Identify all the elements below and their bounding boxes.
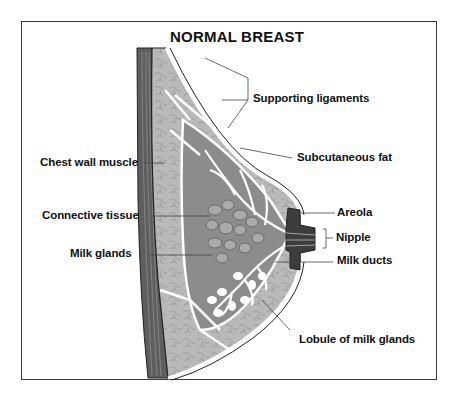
- diagram-title: NORMAL BREAST: [170, 28, 304, 45]
- label-supporting-ligaments: Supporting ligaments: [253, 92, 369, 104]
- label-areola: Areola: [337, 206, 372, 218]
- label-milk-glands: Milk glands: [70, 247, 132, 259]
- nipple-areola: [286, 208, 315, 270]
- label-connective-tissue: Connective tissue: [42, 209, 139, 221]
- label-nipple: Nipple: [336, 231, 371, 243]
- label-subcutaneous-fat: Subcutaneous fat: [297, 151, 392, 163]
- label-milk-ducts: Milk ducts: [337, 254, 392, 266]
- label-lobule-of-milk-glands: Lobule of milk glands: [299, 333, 415, 345]
- label-chest-wall-muscle: Chest wall muscle: [40, 156, 138, 168]
